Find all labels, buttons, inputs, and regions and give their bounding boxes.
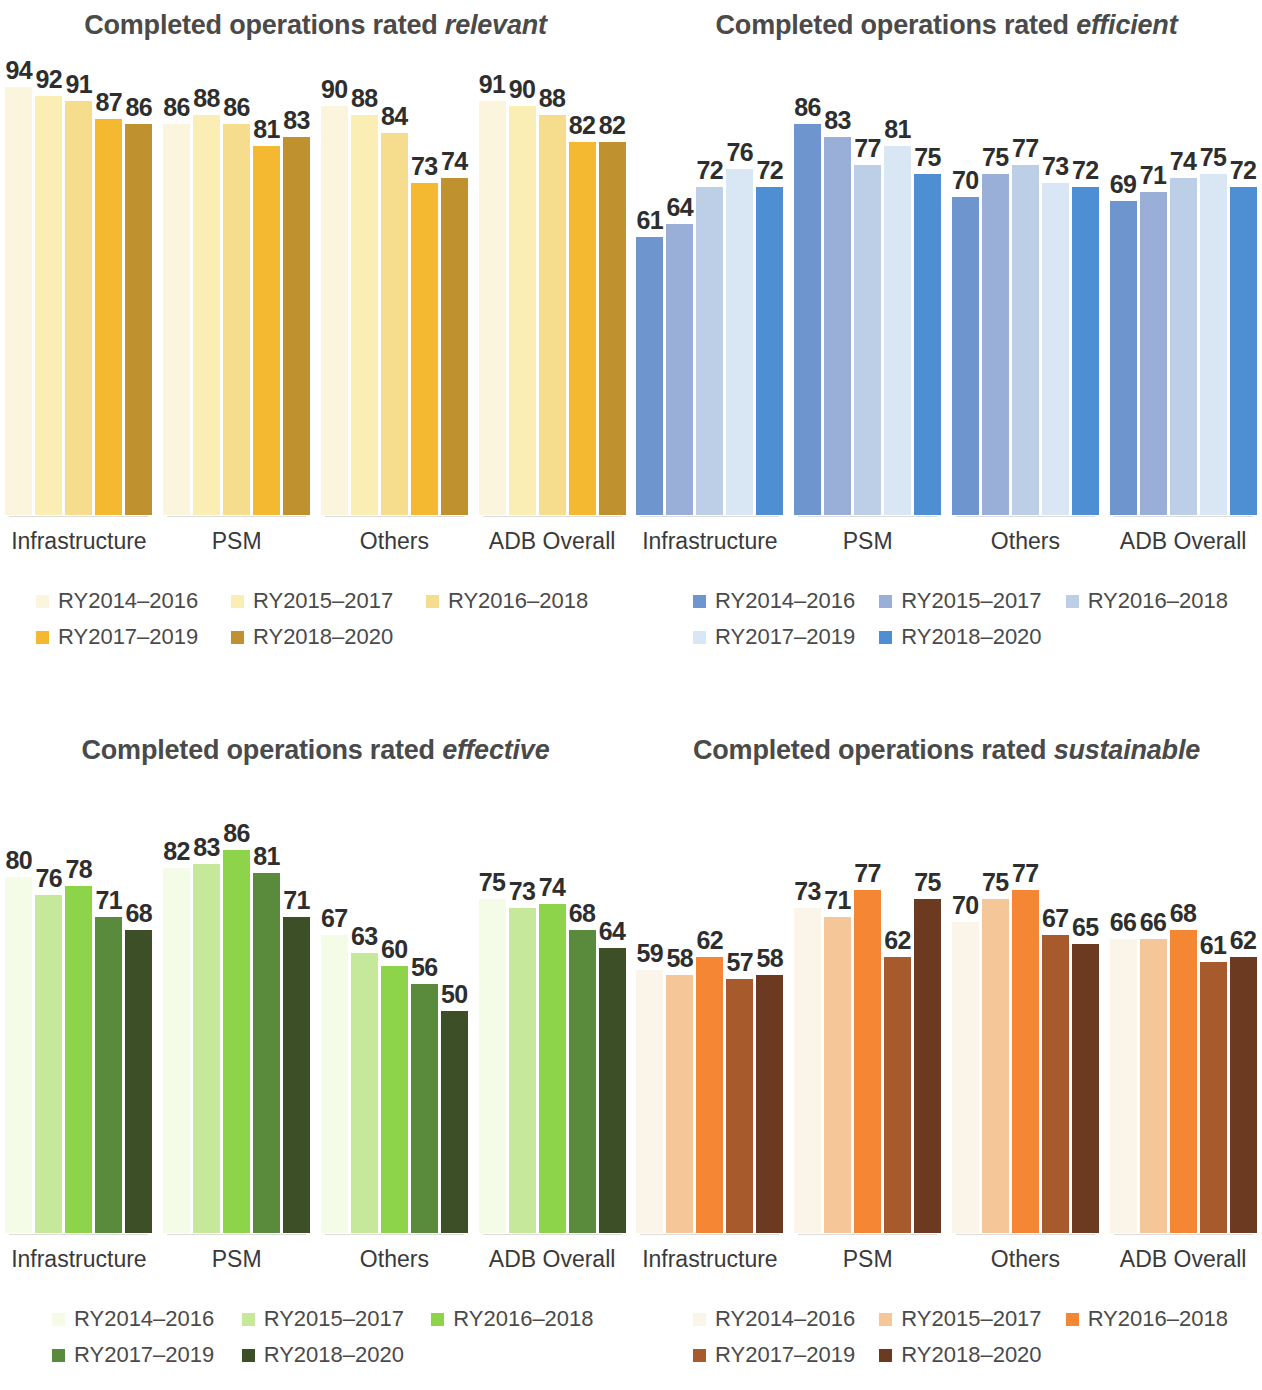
bar — [982, 174, 1009, 515]
legend-item[interactable]: RY2018–2020 — [242, 1342, 432, 1368]
legend-label: RY2014–2016 — [74, 1306, 214, 1332]
bar — [599, 142, 626, 515]
bar — [1200, 962, 1227, 1233]
bar-value-label: 78 — [65, 855, 92, 884]
legend-item[interactable]: RY2015–2017 — [879, 588, 1065, 614]
bar-item: 86 — [223, 788, 250, 1233]
bar-value-label: 67 — [321, 904, 348, 933]
legend-item[interactable]: RY2016–2018 — [1066, 1306, 1252, 1332]
legend-swatch-icon — [879, 1313, 892, 1326]
legend-swatch-icon — [879, 595, 892, 608]
legend-item[interactable]: RY2015–2017 — [879, 1306, 1065, 1332]
legend-swatch-icon — [52, 1313, 65, 1326]
bar-value-label: 87 — [95, 88, 122, 117]
bar — [854, 890, 881, 1233]
bar — [599, 948, 626, 1233]
bar — [982, 899, 1009, 1233]
bar-value-label: 76 — [35, 864, 62, 893]
bar-value-label: 65 — [1072, 913, 1099, 942]
bar — [5, 87, 32, 515]
legend-label: RY2017–2019 — [58, 624, 198, 650]
bar — [1110, 201, 1137, 515]
bar-item: 70 — [952, 60, 979, 515]
legend-swatch-icon — [879, 1349, 892, 1362]
legend-item[interactable]: RY2017–2019 — [52, 1342, 242, 1368]
bar-group: 6164727672 — [631, 60, 789, 515]
bar-item: 56 — [411, 788, 438, 1233]
bar-item: 69 — [1110, 60, 1137, 515]
legend-label: RY2015–2017 — [264, 1306, 404, 1332]
bar-value-label: 84 — [381, 102, 408, 131]
bar-value-label: 66 — [1110, 908, 1137, 937]
bar-value-label: 73 — [509, 877, 536, 906]
chart-title-emphasis: relevant — [445, 10, 547, 40]
legend-item[interactable]: RY2017–2019 — [693, 624, 879, 650]
bar-item: 59 — [636, 788, 663, 1233]
bar-value-label: 73 — [1042, 152, 1069, 181]
bar — [253, 873, 280, 1233]
bar-value-label: 88 — [193, 84, 220, 113]
bar-group: 7075776765 — [947, 788, 1105, 1233]
legend-item[interactable]: RY2014–2016 — [693, 1306, 879, 1332]
legend-item[interactable]: RY2018–2020 — [231, 624, 426, 650]
legend-item[interactable]: RY2016–2018 — [1066, 588, 1252, 614]
legend-item[interactable]: RY2015–2017 — [242, 1306, 432, 1332]
category-label-adb-overall: ADB Overall — [473, 1246, 631, 1273]
legend-item[interactable]: RY2017–2019 — [693, 1342, 879, 1368]
legend-item[interactable]: RY2017–2019 — [36, 624, 231, 650]
legend-item[interactable]: RY2014–2016 — [52, 1306, 242, 1332]
bar-group: 6666686162 — [1104, 788, 1262, 1233]
bar-value-label: 77 — [1012, 859, 1039, 888]
category-label-adb-overall: ADB Overall — [473, 528, 631, 555]
bar — [283, 917, 310, 1233]
bar — [321, 106, 348, 516]
bar-item: 73 — [794, 788, 821, 1233]
bar — [952, 197, 979, 516]
legend-swatch-icon — [52, 1349, 65, 1362]
bar-group: 9492918786 — [0, 60, 158, 515]
bar-item: 82 — [163, 788, 190, 1233]
bar-value-label: 71 — [95, 886, 122, 915]
bar — [824, 137, 851, 515]
legend-item[interactable]: RY2014–2016 — [36, 588, 231, 614]
legend-label: RY2015–2017 — [901, 1306, 1041, 1332]
category-label-infrastructure: Infrastructure — [631, 528, 789, 555]
bar-item: 75 — [479, 788, 506, 1233]
bar-value-label: 57 — [726, 948, 753, 977]
bar-value-label: 81 — [253, 842, 280, 871]
legend-item[interactable]: RY2014–2016 — [693, 588, 879, 614]
bar — [666, 224, 693, 515]
chart-title-emphasis: efficient — [1076, 10, 1177, 40]
legend-swatch-icon — [36, 595, 49, 608]
legend-item[interactable]: RY2016–2018 — [426, 588, 621, 614]
legend-item[interactable]: RY2016–2018 — [431, 1306, 621, 1332]
bar-value-label: 69 — [1110, 170, 1137, 199]
bar — [666, 975, 693, 1233]
bar — [1140, 192, 1167, 515]
bar-group: 8283868171 — [158, 788, 316, 1233]
legend-item[interactable]: RY2015–2017 — [231, 588, 426, 614]
bar-value-label: 76 — [726, 138, 753, 167]
bar-value-label: 77 — [854, 859, 881, 888]
legend-label: RY2017–2019 — [74, 1342, 214, 1368]
legend-label: RY2016–2018 — [1088, 588, 1228, 614]
bar-value-label: 68 — [125, 899, 152, 928]
bar — [65, 101, 92, 515]
bar-value-label: 91 — [65, 70, 92, 99]
bar — [381, 966, 408, 1233]
bar — [884, 146, 911, 515]
category-axis-effective: InfrastructurePSMOthersADB Overall — [0, 1246, 631, 1273]
bar-value-label: 74 — [539, 873, 566, 902]
bar-item: 73 — [509, 788, 536, 1233]
bar-item: 88 — [193, 60, 220, 515]
chart-title-prefix: Completed operations rated — [82, 735, 443, 765]
bar-item: 86 — [223, 60, 250, 515]
legend-item[interactable]: RY2018–2020 — [879, 1342, 1065, 1368]
legend-item[interactable]: RY2018–2020 — [879, 624, 1065, 650]
bar-item: 86 — [794, 60, 821, 515]
legend-relevant: RY2014–2016RY2015–2017RY2016–2018RY2017–… — [0, 588, 631, 660]
bar — [321, 935, 348, 1233]
bar — [381, 133, 408, 515]
chart-panel-effective: Completed operations rated effective8076… — [0, 695, 631, 1390]
bar-value-label: 58 — [666, 944, 693, 973]
